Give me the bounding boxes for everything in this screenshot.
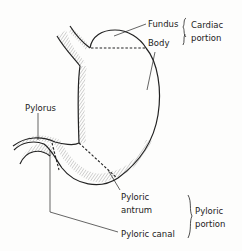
body-leader xyxy=(147,52,155,90)
label-body: Body xyxy=(148,38,169,48)
cardiac-brace-lower xyxy=(183,34,185,45)
braces xyxy=(183,18,192,238)
label-cardiac-portion: portion xyxy=(191,33,221,43)
label-pyloric-portion-1: Pyloric xyxy=(195,206,224,216)
label-pyloric-antrum-2: antrum xyxy=(121,205,152,215)
label-pyloric-antrum-1: Pyloric xyxy=(121,192,150,202)
label-pyloric-canal: Pyloric canal xyxy=(121,229,175,239)
stomach-diagram: Fundus Body Cardiac portion Pylorus Pylo… xyxy=(0,0,242,251)
duodenum-lower xyxy=(20,151,50,164)
label-cardiac: Cardiac xyxy=(191,20,223,30)
canal-leader xyxy=(50,150,118,232)
fundus-curve xyxy=(90,30,146,48)
label-pyloric-portion-2: portion xyxy=(195,219,225,229)
greater-curvature xyxy=(14,48,160,185)
pyloric-brace xyxy=(188,195,192,238)
label-fundus: Fundus xyxy=(148,19,179,29)
label-pylorus: Pylorus xyxy=(25,103,57,113)
